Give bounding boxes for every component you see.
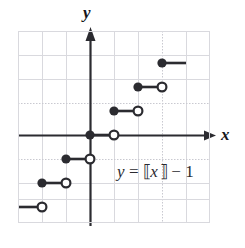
closed-point [109,106,118,115]
open-endpoints [38,83,167,212]
closed-point [37,178,46,187]
closed-point [85,130,94,139]
equation-lhs: y [117,162,125,181]
floor-bracket-close: ⟧ [160,163,165,180]
closed-point [133,82,142,91]
open-point [158,83,167,92]
y-axis-label: y [83,4,91,21]
open-point [86,155,95,164]
floor-bracket-open: ⟦ [143,163,148,180]
graph-figure: y x y=⟦x⟧−1 [0,0,245,248]
equation-argument: x [150,162,158,181]
open-point [110,131,119,140]
open-point [134,107,143,116]
equation-annotation: y=⟦x⟧−1 [117,163,194,180]
open-point [38,203,47,212]
closed-point [157,58,166,67]
y-axis-arrowhead [86,27,96,41]
closed-point [61,154,70,163]
x-axis-label: x [221,126,230,143]
equation-minus: − [171,162,181,181]
grid-vertical-lines [19,31,210,223]
open-point [62,179,71,188]
coordinate-plane [0,0,245,248]
equation-constant: 1 [185,162,194,181]
equation-equals: = [129,162,139,181]
